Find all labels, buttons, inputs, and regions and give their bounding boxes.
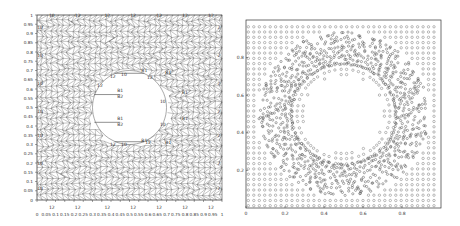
y-tick-label: 0.95 xyxy=(24,22,34,27)
y-tick-label: 0.6 xyxy=(26,87,33,92)
boundary-label: 12 xyxy=(130,13,136,18)
boundary-label: 12 xyxy=(208,205,214,210)
y-tick-label: 0.2 xyxy=(237,168,244,173)
boundary-label: B1 xyxy=(165,70,171,75)
boundary-label: 12 xyxy=(104,13,110,18)
y-tick-label: 0.4 xyxy=(26,124,33,129)
boundary-label: 12 xyxy=(156,205,162,210)
boundary-label: 12 xyxy=(75,205,81,210)
y-axis: 00.050.10.150.20.250.30.350.40.450.50.55… xyxy=(24,13,37,203)
y-tick-label: 0.2 xyxy=(26,161,33,166)
boundary-label: 10 xyxy=(37,186,43,191)
boundary-label: B1 xyxy=(141,68,147,73)
dense-ring-points xyxy=(258,31,427,196)
y-tick-label: 0.1 xyxy=(26,179,33,184)
boundary-label: B1 xyxy=(165,140,171,145)
boundary-label: 12 xyxy=(156,13,162,18)
x-tick-label: 0.1 xyxy=(52,212,59,217)
boundary-label: 12 xyxy=(110,142,116,147)
boundary-label: 2 xyxy=(218,25,221,30)
y-tick-label: 0.5 xyxy=(26,105,33,110)
boundary-label: 10 xyxy=(160,122,166,127)
hole-boundary xyxy=(93,71,167,145)
scatter-points xyxy=(247,26,435,207)
boundary-label: 2 xyxy=(218,161,221,166)
boundary-label: 12 xyxy=(130,205,136,210)
y-tick-label: 0.45 xyxy=(24,114,34,119)
y-tick-label: 0.3 xyxy=(26,142,33,147)
boundary-label: 10 xyxy=(121,72,127,77)
x-tick-label: 0.85 xyxy=(190,212,200,217)
y-tick-label: 0.75 xyxy=(24,59,34,64)
y-tick-label: 0.05 xyxy=(24,188,34,193)
x-tick-label: 0.2 xyxy=(281,211,288,216)
boundary-label: 10 xyxy=(49,13,55,18)
x-tick-label: 0.35 xyxy=(97,212,107,217)
boundary-label: 12 xyxy=(182,13,188,18)
x-tick-label: 0.25 xyxy=(79,212,89,217)
boundary-label: 10 xyxy=(160,99,166,104)
y-tick-label: 0.35 xyxy=(24,133,34,138)
y-tick-label: 0.25 xyxy=(24,151,34,156)
x-tick-label: 0.7 xyxy=(163,212,170,217)
boundary-label: 12 xyxy=(110,74,116,79)
y-tick-label: 0.8 xyxy=(26,50,33,55)
x-tick-label: 0.75 xyxy=(171,212,181,217)
boundary-label: 10 xyxy=(37,81,43,86)
mesh-plot: 00.050.10.150.20.250.30.350.40.450.50.55… xyxy=(0,0,230,226)
y-tick-label: 0.6 xyxy=(237,93,244,98)
y-tick-label: 0.8 xyxy=(237,55,244,60)
y-tick-label: 0.9 xyxy=(26,31,33,36)
boundary-label: 10 xyxy=(121,142,127,147)
x-tick-label: 0.4 xyxy=(320,211,327,216)
boundary-label: 12 xyxy=(97,83,103,88)
boundary-label: 2 xyxy=(218,109,221,114)
boundary-label: 12 xyxy=(104,205,110,210)
boundary-label: 2 xyxy=(218,186,221,191)
y-tick-label: 0.55 xyxy=(24,96,34,101)
x-tick-label: 0.5 xyxy=(126,212,133,217)
y-tick-label: 0.65 xyxy=(24,77,34,82)
x-tick-label: 0 xyxy=(245,211,248,216)
x-tick-label: 0.45 xyxy=(116,212,126,217)
x-tick-label: 0.55 xyxy=(134,212,144,217)
boundary-label: 12 xyxy=(75,13,81,18)
boundary-label: B2 xyxy=(117,122,123,127)
boundary-label: B1 xyxy=(182,90,188,95)
x-tick-label: 0.05 xyxy=(42,212,52,217)
x-tick-label: 0.8 xyxy=(182,212,189,217)
boundary-label: 2 xyxy=(218,81,221,86)
boundary-label: 12 xyxy=(182,205,188,210)
boundary-label: 2 xyxy=(218,53,221,58)
boundary-label: 10 xyxy=(37,133,43,138)
x-tick-label: 0.15 xyxy=(60,212,70,217)
boundary-label: 10 xyxy=(37,53,43,58)
x-tick-label: 0.6 xyxy=(359,211,366,216)
x-tick-label: 1 xyxy=(221,212,224,217)
y-tick-label: 0.4 xyxy=(237,130,244,135)
mesh-plot-canvas: 00.050.10.150.20.250.30.350.40.450.50.55… xyxy=(0,0,230,226)
y-tick-label: 1 xyxy=(30,13,33,18)
x-tick-label: 0.8 xyxy=(398,211,405,216)
y-tick-label: 0.85 xyxy=(24,40,34,45)
boundary-label: 10 xyxy=(37,25,43,30)
boundary-label: B2 xyxy=(117,94,123,99)
boundary-label: B1 xyxy=(182,116,188,121)
x-tick-label: 0 xyxy=(36,212,39,217)
x-axis: 00.20.40.60.8 xyxy=(245,206,406,216)
x-tick-label: 0.65 xyxy=(153,212,163,217)
x-tick-label: 0.95 xyxy=(208,212,218,217)
boundary-label: 10 xyxy=(37,161,43,166)
x-tick-label: 0.2 xyxy=(71,212,78,217)
y-tick-label: 0.15 xyxy=(24,170,34,175)
x-tick-label: 0.6 xyxy=(145,212,152,217)
boundary-label: 10 xyxy=(37,109,43,114)
x-tick-label: 0.3 xyxy=(89,212,96,217)
y-tick-label: 0.7 xyxy=(26,68,33,73)
boundary-label: 12 xyxy=(208,13,214,18)
boundary-label: 2 xyxy=(218,133,221,138)
y-tick-label: 0 xyxy=(30,198,33,203)
boundary-label: 12 xyxy=(145,140,151,145)
boundary-label: B1 xyxy=(117,88,123,93)
boundary-label: 12 xyxy=(49,205,55,210)
